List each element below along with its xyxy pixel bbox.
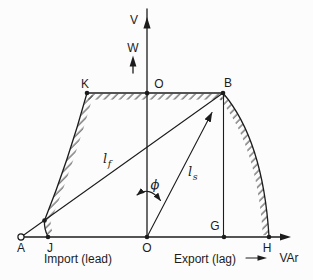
w-axis-label: W: [127, 41, 139, 55]
ls-arrow: [147, 113, 212, 238]
var-legend-arrowhead-icon: [258, 255, 268, 261]
lf-label: lf: [103, 151, 113, 169]
point-k-dot: [85, 91, 90, 96]
point-o-origin-dot: [145, 235, 150, 240]
var-axis-arrowhead-icon: [280, 234, 291, 241]
point-k-label: K: [81, 77, 89, 91]
point-g-label: G: [210, 219, 219, 233]
export-region-label: Export (lag): [174, 252, 236, 266]
point-o-origin-label: O: [142, 241, 151, 255]
hatch-band-left: [48, 95, 91, 236]
operating-chart-figure: V W VAr K O B A J O G H ϕ lf ls Import (…: [0, 0, 313, 280]
point-h-dot: [267, 235, 272, 240]
point-b-dot: [221, 91, 226, 96]
point-a-label: A: [17, 241, 25, 255]
lf-curve-intersection-dot: [42, 218, 47, 223]
point-b-label: B: [224, 76, 232, 90]
operating-chart-canvas: V W VAr K O B A J O G H ϕ lf ls Import (…: [0, 0, 313, 280]
hatch-band-top: [88, 94, 222, 100]
phi-angle-arc: [137, 191, 161, 200]
point-a-open-circle: [18, 234, 24, 240]
point-h-label: H: [263, 241, 272, 255]
v-axis-label: V: [130, 13, 138, 27]
ls-label: ls: [188, 164, 198, 182]
var-axis-label: VAr: [279, 251, 298, 265]
phi-label: ϕ: [151, 177, 160, 192]
point-g-dot: [222, 235, 227, 240]
v-axis-arrowhead-icon: [143, 17, 150, 29]
point-o-top-label: O: [154, 77, 163, 91]
w-arrowhead-icon: [130, 56, 137, 67]
hatch-band-right: [220, 95, 266, 236]
point-o-top-dot: [145, 91, 150, 96]
import-region-label: Import (lead): [44, 252, 112, 266]
lf-line: [21, 93, 223, 237]
point-j-dot: [46, 235, 51, 240]
